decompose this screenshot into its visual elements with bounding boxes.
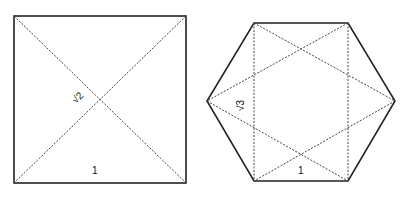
square-figure [14, 16, 186, 183]
square-side-label: 1 [92, 165, 98, 176]
diagrams [0, 0, 407, 197]
hexagon-side-label: 1 [298, 165, 304, 176]
hexagon-diagonal-label: √3 [235, 100, 246, 111]
